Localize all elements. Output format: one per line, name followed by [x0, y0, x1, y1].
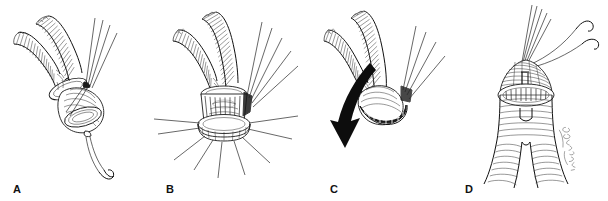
graft-limb-right: [36, 16, 82, 85]
figure-panel-a: A: [0, 0, 152, 201]
panel-label-d: D: [465, 184, 473, 195]
limb-left-corrugations: [175, 31, 211, 88]
graft-limb-left: [484, 140, 522, 188]
suture-strands-upper: [86, 18, 117, 88]
suture-strands-upper: [247, 22, 298, 107]
suture-strands-upper: [403, 26, 445, 99]
limb-left-corrugations: [17, 34, 55, 83]
panel-b-illustration: [152, 0, 304, 201]
graft-limb-right: [202, 12, 238, 92]
limb-right-corrugations: [203, 13, 235, 89]
limb-right-corrugations: [37, 17, 75, 81]
figure-panel-group: A: [0, 0, 608, 201]
figure-panel-c: C: [304, 0, 456, 201]
figure-panel-d: D: [456, 0, 608, 201]
u-stitch-mark: [520, 108, 532, 121]
graft-limb-left: [173, 29, 217, 92]
limb-crotch: [522, 142, 530, 145]
panel-d-illustration: [456, 0, 608, 201]
limb-left-corrugations: [326, 31, 361, 89]
panel-label-c: C: [330, 184, 338, 195]
anastomotic-suture-line: [498, 84, 554, 106]
curved-needle-secondary: [582, 39, 599, 49]
panel-c-illustration: [304, 0, 456, 201]
suture-strands-upper: [522, 5, 551, 64]
cuff-shadow-wedge: [243, 92, 252, 116]
suture-tail-with-needle: [529, 21, 599, 68]
curved-needle: [576, 21, 593, 31]
suture-knot: [83, 82, 90, 88]
graft-limb-right: [530, 140, 568, 188]
curved-needle: [99, 170, 114, 179]
panel-label-b: B: [166, 184, 174, 195]
panel-label-a: A: [13, 184, 21, 195]
figure-panel-b: B: [152, 0, 304, 201]
anastomotic-cuff: [58, 88, 104, 133]
artist-signature: [558, 127, 577, 171]
limb-crotch-shading: [56, 70, 64, 82]
suture-tail-with-needle: [84, 131, 114, 179]
panel-a-illustration: [0, 0, 152, 201]
